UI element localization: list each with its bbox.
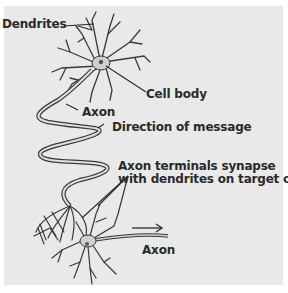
- top-nucleus: [99, 60, 103, 64]
- label-direction-of-message: Direction of message: [112, 121, 251, 134]
- label-axon-top: Axon: [82, 106, 115, 119]
- axon-path: [39, 70, 108, 206]
- label-cell-body: Cell body: [146, 88, 207, 101]
- axon-terminals: [34, 206, 86, 244]
- label-axon-bottom: Axon: [142, 244, 175, 257]
- label-axon-terminals-line2: with dendrites on target cell: [118, 173, 288, 186]
- label-dendrites: Dendrites: [2, 18, 66, 31]
- direction-arrow-icon: [132, 224, 162, 232]
